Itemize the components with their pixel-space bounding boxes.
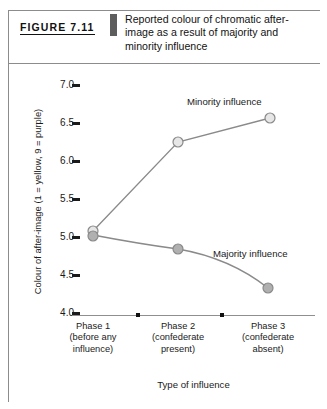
x-category-line: (confederate xyxy=(225,332,311,343)
series-annotation-minority: Minority influence xyxy=(187,96,262,107)
x-category-line: present) xyxy=(135,344,221,355)
x-tick-mark xyxy=(220,313,224,317)
series-line-majority xyxy=(93,235,268,288)
data-point-majority-phase2 xyxy=(173,244,183,254)
x-category-line: Phase 1 xyxy=(50,321,136,332)
data-point-majority-phase1 xyxy=(88,231,98,241)
x-axis-title: Type of influence xyxy=(72,379,315,390)
x-category-line: Phase 3 xyxy=(225,321,311,332)
x-category-line: absent) xyxy=(225,344,311,355)
data-point-minority-phase3 xyxy=(265,113,275,123)
x-tick-mark xyxy=(136,313,140,317)
x-axis-line xyxy=(72,315,315,316)
series-line-minority xyxy=(93,118,270,231)
x-category-label-phase2: Phase 2 (confederate present) xyxy=(135,321,221,355)
x-category-line: Phase 2 xyxy=(135,321,221,332)
x-category-label-phase3: Phase 3 (confederate absent) xyxy=(225,321,311,355)
x-category-line: (before any xyxy=(50,332,136,343)
series-annotation-majority: Majority influence xyxy=(213,248,288,259)
chart-plot-area: Colour of after-image (1 = yellow, 9 = p… xyxy=(0,0,327,409)
x-category-label-phase1: Phase 1 (before any influence) xyxy=(50,321,136,355)
data-point-majority-phase3 xyxy=(263,283,273,293)
x-category-line: (confederate xyxy=(135,332,221,343)
data-point-minority-phase2 xyxy=(173,137,183,147)
x-category-line: influence) xyxy=(50,344,136,355)
